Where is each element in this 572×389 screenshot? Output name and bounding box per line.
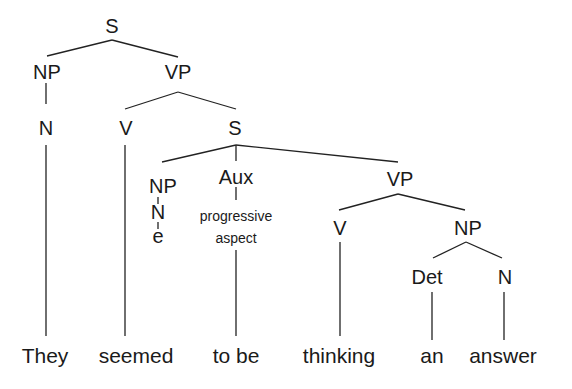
tree-edges [46, 40, 504, 340]
edge-vp2-np [398, 194, 465, 210]
node-v-main: V [119, 117, 133, 139]
edge-s-np [47, 40, 112, 56]
edge-vp2-v [339, 194, 398, 210]
aux-note-line2: aspect [215, 230, 256, 246]
node-aux: Aux [219, 166, 253, 188]
node-s-root: S [105, 15, 118, 37]
edge-np3-det [433, 242, 466, 258]
node-n-subject: N [39, 117, 53, 139]
node-v-embedded: V [333, 217, 347, 239]
tree-nodes: S NP VP N V S NP N e Aux progressive asp… [33, 15, 512, 288]
edge-np3-n [466, 242, 502, 258]
word-to-be: to be [213, 344, 260, 367]
sentence-words: They seemed to be thinking an answer [22, 344, 537, 367]
node-np-embedded: NP [149, 175, 177, 197]
edge-s2-np [162, 145, 236, 162]
edge-vp-v [125, 92, 178, 109]
node-np-subject: NP [33, 61, 61, 83]
word-answer: answer [469, 344, 537, 367]
node-s-embedded: S [228, 117, 241, 139]
node-n-embedded: N [151, 201, 165, 223]
edge-s-vp [112, 40, 178, 57]
node-vp-embedded: VP [387, 168, 414, 190]
aux-note-line1: progressive [200, 208, 273, 224]
word-they: They [22, 344, 69, 367]
node-empty-e: e [152, 225, 163, 247]
word-an: an [420, 344, 443, 367]
word-seemed: seemed [99, 344, 174, 367]
node-det: Det [411, 266, 443, 288]
word-thinking: thinking [303, 344, 375, 367]
node-np-object: NP [454, 217, 482, 239]
edge-s2-vp [236, 145, 398, 162]
syntax-tree-diagram: S NP VP N V S NP N e Aux progressive asp… [0, 0, 572, 389]
node-n-object: N [498, 266, 512, 288]
edge-vp-s [178, 92, 236, 109]
node-vp-main: VP [165, 61, 192, 83]
